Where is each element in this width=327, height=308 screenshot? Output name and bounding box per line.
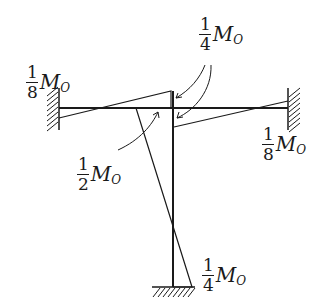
label-mid-joint-moment: 12 MO bbox=[77, 156, 121, 193]
label-right-end-moment: 18 MO bbox=[262, 126, 306, 163]
label-top-joint-moment: 14 MO bbox=[199, 16, 243, 53]
label-left-end-moment: 18 MO bbox=[26, 64, 70, 101]
base-fixed-support bbox=[152, 287, 195, 297]
label-base-moment: 14 MO bbox=[202, 257, 246, 294]
